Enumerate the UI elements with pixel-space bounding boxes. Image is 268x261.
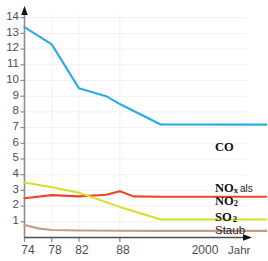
y-tick-label: 14: [1, 11, 19, 22]
y-tick-label: 8: [1, 105, 19, 116]
y-tick-label: 4: [1, 168, 19, 179]
y-tick-label: 3: [1, 184, 19, 195]
x-tick-label: 88: [109, 244, 137, 256]
y-tick-label: 2: [1, 199, 19, 210]
series-label-so2: SO2: [215, 211, 237, 225]
nox-main: NO: [215, 181, 234, 195]
x-tick-label: 78: [41, 244, 69, 256]
y-tick-label: 1: [1, 215, 19, 226]
series-label-co: CO: [215, 141, 234, 153]
emissions-line-chart: 14 13 12 11 10 9 8 7 6 5 4 3 2 1 74 78 8…: [0, 0, 267, 261]
y-tick-label: 6: [1, 137, 19, 148]
x-tick-label: 74: [14, 244, 42, 256]
x-tick-label: 82: [68, 244, 96, 256]
x-tick-label: 2000: [185, 244, 225, 256]
series-label-staub: Staub: [215, 224, 245, 236]
so2-main: SO: [215, 210, 232, 224]
no2-main: NO: [215, 194, 234, 208]
x-axis-title: Jahr: [228, 244, 250, 256]
y-tick-label: 7: [1, 121, 19, 132]
nox-als-word: als: [240, 183, 253, 194]
series-label-no2: NO2: [215, 195, 238, 209]
no2-subscript: 2: [234, 198, 238, 208]
nox-subscript: x: [234, 185, 238, 195]
y-tick-label: 12: [1, 42, 19, 53]
y-tick-label: 11: [1, 58, 19, 69]
y-axis: [21, 6, 28, 238]
y-tick-label: 9: [1, 90, 19, 101]
series-line-co: [25, 27, 268, 148]
y-tick-label: 5: [1, 152, 19, 163]
so2-subscript: 2: [233, 214, 237, 224]
y-tick-label: 10: [1, 74, 19, 85]
y-tick-label: 13: [1, 27, 19, 38]
